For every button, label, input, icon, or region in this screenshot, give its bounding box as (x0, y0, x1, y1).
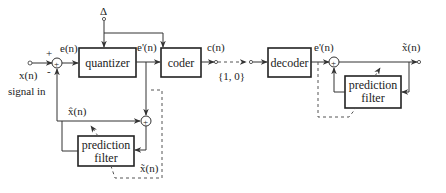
encoder-sum-symbol: + (54, 59, 59, 69)
reconstruction-sum-symbol: + (143, 117, 148, 127)
decoder-output-label: x̃(n) (402, 41, 421, 54)
encoder-adaptation-arrow (91, 126, 98, 136)
quantizer-label: quantizer (85, 56, 130, 70)
input-terminal (28, 61, 32, 65)
decoder-filter-to-sum-arrow (334, 68, 345, 92)
coder-output-terminal (214, 60, 217, 63)
coder-label: coder (168, 56, 195, 70)
step-size-terminal (102, 17, 105, 20)
decoder-error-label: e'(n) (314, 41, 334, 54)
prediction-label: x̂(n) (68, 105, 87, 118)
plus-sign: + (46, 47, 52, 59)
decoder-prediction-filter-label-line1: prediction (349, 78, 398, 92)
encoder-prediction-filter-label-line2: filter (94, 151, 117, 165)
reconstructed-label: x̃(n) (140, 162, 159, 175)
decoder-adaptation-arrow (375, 68, 380, 76)
step-size-label: Δ (100, 5, 107, 17)
decoder-prediction-filter-label-line2: filter (361, 91, 384, 105)
filter-output-line (62, 121, 78, 151)
input-label: x(n) (19, 69, 38, 82)
quantized-error-label: e'(n) (137, 41, 157, 54)
reconstructed-to-filter-arrow (135, 126, 146, 150)
input-caption: signal in (8, 85, 46, 97)
error-label: e(n) (60, 42, 78, 55)
decoder-output-terminal (417, 60, 420, 63)
channel-bits-label: {1, 0} (218, 70, 245, 82)
code-label: c(n) (207, 41, 225, 54)
encoder-prediction-filter-label-line1: prediction (82, 138, 131, 152)
minus-sign: - (47, 65, 51, 77)
decoder-label: decoder (271, 56, 309, 70)
decoder-input-terminal (249, 60, 252, 63)
decoder-output-to-filter-arrow (402, 62, 409, 92)
dpcm-block-diagram: x(n) signal in + - + e(n) quantizer Δ e'… (0, 0, 446, 193)
decoder-sum-symbol: + (331, 58, 336, 68)
